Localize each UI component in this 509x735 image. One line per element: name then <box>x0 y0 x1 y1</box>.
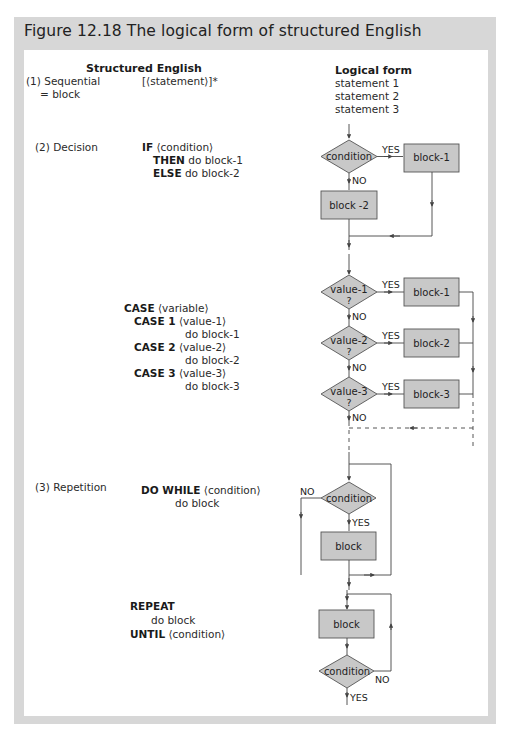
repeat-until-flowchart <box>319 590 391 705</box>
case-block-3-label: block-3 <box>413 389 450 400</box>
case-diamond-3-question: ? <box>346 397 351 408</box>
decision-diamond-label: condition <box>326 151 372 162</box>
do-while-no-label: NO <box>300 486 315 497</box>
do-while-yes-label: YES <box>351 517 370 528</box>
decision-block-1-label: block-1 <box>413 152 450 163</box>
repeat-yes-label: YES <box>349 692 368 703</box>
do-while-flowchart <box>301 452 391 590</box>
decision-flowchart <box>321 124 459 250</box>
case-block-1-label: block-1 <box>413 287 450 298</box>
repeat-block-label: block <box>333 619 360 630</box>
do-while-diamond-label: condition <box>326 493 372 504</box>
case-no-1-label: NO <box>352 311 367 322</box>
decision-no-label: NO <box>352 175 367 186</box>
case-diamond-2-question: ? <box>346 346 351 357</box>
do-while-block-label: block <box>335 541 362 552</box>
case-diamond-2-label: value-2 <box>330 335 367 346</box>
case-diamond-1-label: value-1 <box>330 284 367 295</box>
case-block-2-label: block-2 <box>413 338 450 349</box>
repeat-no-label: NO <box>375 674 390 685</box>
decision-yes-label: YES <box>381 144 400 155</box>
case-diamond-3-label: value-3 <box>330 386 367 397</box>
repeat-diamond-label: condition <box>324 666 370 677</box>
case-no-3-label: NO <box>352 412 367 423</box>
case-yes-1-label: YES <box>381 279 400 290</box>
case-yes-3-label: YES <box>381 381 400 392</box>
case-no-2-label: NO <box>352 362 367 373</box>
decision-block-2-label: block -2 <box>329 200 369 211</box>
case-yes-2-label: YES <box>381 330 400 341</box>
flowcharts: condition YES NO block-1 block -2 value-… <box>0 0 509 735</box>
case-diamond-1-question: ? <box>346 295 351 306</box>
